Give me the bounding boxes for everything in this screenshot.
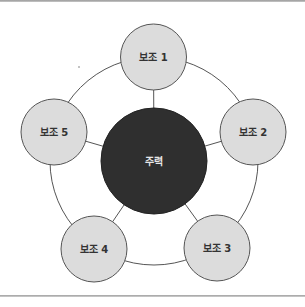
hub-node: 주력 bbox=[101, 108, 207, 214]
satellite-label: 보조 2 bbox=[239, 127, 267, 138]
satellite-node-2: 보조 2 bbox=[220, 99, 286, 165]
bottom-border bbox=[0, 295, 305, 297]
hub-spoke-diagram: 주력 보조 1 보조 2 보조 3 보조 4 보조 5 bbox=[0, 0, 305, 307]
satellite-label: 보조 3 bbox=[203, 243, 231, 254]
hub-label: 주력 bbox=[145, 156, 163, 167]
satellite-label: 보조 1 bbox=[139, 52, 167, 63]
satellite-node-4: 보조 4 bbox=[61, 216, 127, 282]
satellite-node-3: 보조 3 bbox=[184, 215, 250, 281]
stray-dot bbox=[78, 66, 80, 68]
satellite-node-1: 보조 1 bbox=[121, 24, 187, 90]
satellite-node-5: 보조 5 bbox=[21, 99, 87, 165]
satellite-label: 보조 5 bbox=[40, 127, 68, 138]
satellite-label: 보조 4 bbox=[80, 244, 108, 255]
